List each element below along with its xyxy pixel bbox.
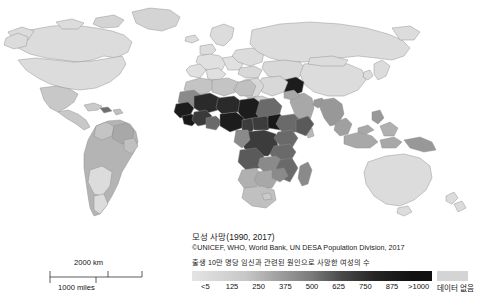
legend-tick-7: 875 bbox=[386, 282, 399, 291]
world-map-svg: .cty { stroke:#8d8d8d; stroke-width:0.45… bbox=[0, 0, 491, 255]
legend-nodata-label: 데이터 없음 bbox=[437, 282, 474, 293]
scale-bar: 2000 km 1000 miles bbox=[48, 258, 144, 294]
caption-title: 모성 사망(1990, 2017) bbox=[192, 232, 432, 243]
legend-caption: 출생 10만 명당 임신과 관련된 원인으로 사망한 여성의 수 bbox=[192, 258, 482, 268]
maternal-mortality-map-page: 2017 .cty { stroke:#8d8d8d; stroke-width… bbox=[0, 0, 491, 301]
legend-tick-4: 500 bbox=[306, 282, 319, 291]
legend-gradient-bar bbox=[192, 271, 432, 281]
map-caption: 모성 사망(1990, 2017) ©UNICEF, WHO, World Ba… bbox=[192, 232, 432, 253]
map-legend: 출생 10만 명당 임신과 관련된 원인으로 사망한 여성의 수 데이터 없음 … bbox=[192, 258, 482, 294]
legend-tick-5: 625 bbox=[332, 282, 345, 291]
legend-tick-6: 750 bbox=[359, 282, 372, 291]
caption-source: ©UNICEF, WHO, World Bank, UN DESA Popula… bbox=[192, 243, 432, 253]
legend-tick-8: >1000 bbox=[408, 282, 429, 291]
scalebar-miles-label: 1000 miles bbox=[58, 283, 95, 292]
legend-bars bbox=[192, 271, 482, 281]
scalebar-km-label: 2000 km bbox=[74, 258, 103, 267]
legend-tick-1: 125 bbox=[226, 282, 239, 291]
legend-nodata-swatch bbox=[437, 271, 468, 281]
world-map[interactable]: .cty { stroke:#8d8d8d; stroke-width:0.45… bbox=[0, 0, 491, 255]
legend-tick-3: 375 bbox=[279, 282, 292, 291]
legend-tick-0: <5 bbox=[201, 282, 210, 291]
legend-tick-2: 250 bbox=[252, 282, 265, 291]
legend-tick-labels: 데이터 없음 <5125250375500625750875>1000 bbox=[192, 282, 482, 294]
